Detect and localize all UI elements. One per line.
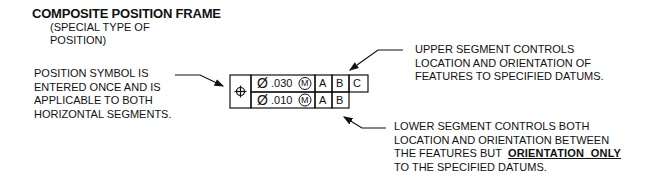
datum-a: A xyxy=(319,75,326,92)
upper-leader-arrow xyxy=(350,50,403,70)
upper-tolerance-row: Ø .030 M A B C xyxy=(251,75,368,92)
datum-a: A xyxy=(319,92,326,108)
diameter-symbol: Ø xyxy=(257,75,268,92)
tolerance-value: .010 xyxy=(271,92,292,108)
position-symbol-icon xyxy=(235,86,247,98)
diameter-symbol: Ø xyxy=(257,92,268,108)
datum-c: C xyxy=(353,75,361,92)
lower-tolerance-row: Ø .010 M A B xyxy=(251,92,349,108)
datum-b: B xyxy=(336,92,343,108)
datum-b: B xyxy=(336,75,343,92)
lower-leader-arrow xyxy=(344,117,386,128)
tolerance-value: .030 xyxy=(271,75,292,92)
left-leader-arrow xyxy=(175,75,223,86)
mmc-modifier: M xyxy=(301,75,309,92)
mmc-modifier: M xyxy=(301,92,309,108)
